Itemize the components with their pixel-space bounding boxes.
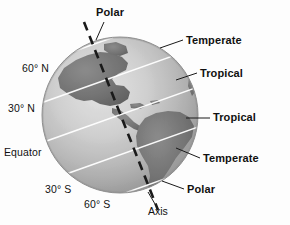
axis-label: Axis [148,206,168,217]
europe-sliver-shape [186,44,198,62]
zone-label-tropical-south: Tropical [213,112,256,123]
globe-diagram: 60° N 30° N Equator 30° S 60° S Polar Te… [0,0,290,225]
leader-temperate-north [160,40,183,48]
zone-label-polar-north: Polar [96,7,124,18]
latitude-label-30n: 30° N [8,103,35,114]
zone-label-temperate-north: Temperate [186,35,242,46]
latitude-label-30s: 30° S [45,184,71,195]
zone-label-tropical-north: Tropical [200,68,243,79]
leader-polar-south [162,181,184,189]
latitude-label-60s: 60° S [84,199,110,210]
zone-label-polar-south: Polar [187,184,215,195]
zone-label-temperate-south: Temperate [203,153,259,164]
latitude-label-equator: Equator [4,147,41,158]
leader-polar-north [96,22,104,40]
latitude-label-60n: 60° N [22,63,49,74]
